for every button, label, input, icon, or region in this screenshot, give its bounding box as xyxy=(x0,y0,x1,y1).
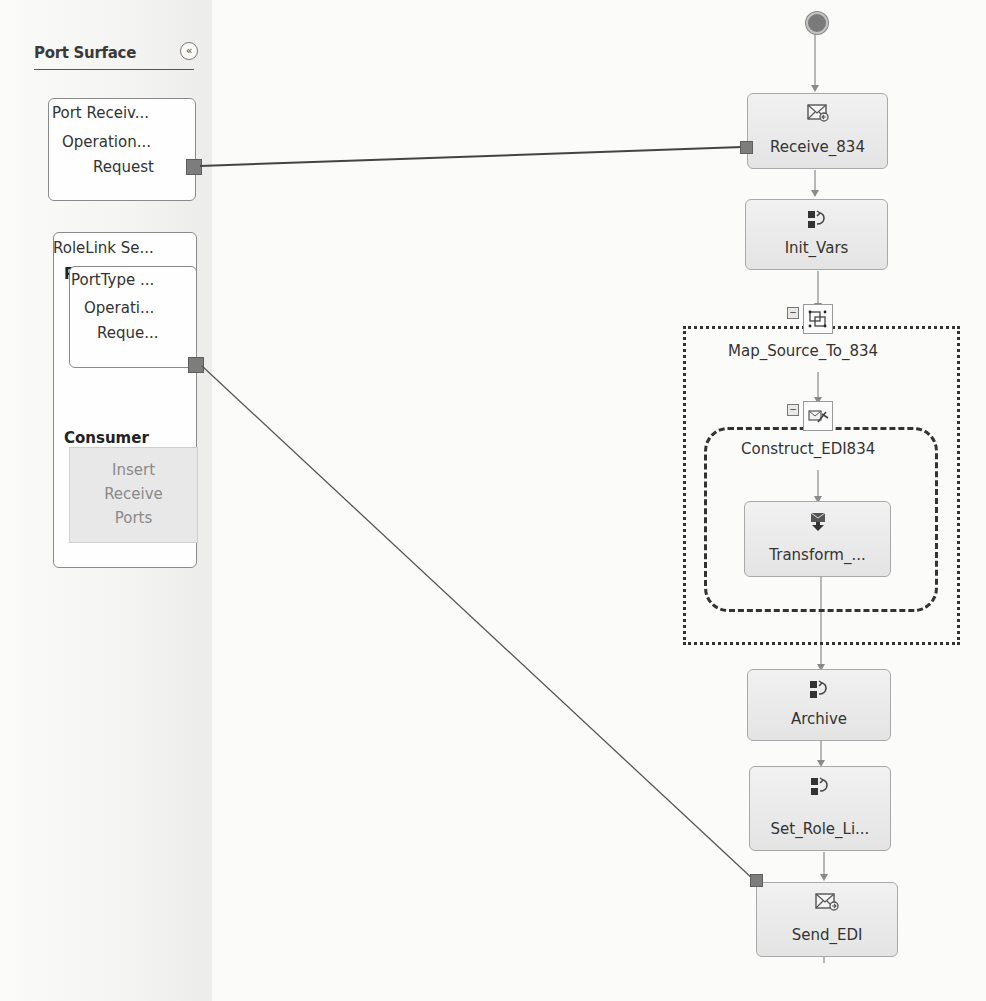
shape-label: Set_Role_Li... xyxy=(750,820,890,838)
shape-set-role-link[interactable]: Set_Role_Li... xyxy=(749,766,891,851)
receive-message-icon xyxy=(807,104,829,126)
shape-label: Receive_834 xyxy=(748,138,887,156)
shape-label: Init_Vars xyxy=(746,239,887,257)
scope-icon[interactable] xyxy=(803,304,833,334)
send-message-icon xyxy=(815,893,839,915)
transform-icon xyxy=(809,512,827,536)
expression-icon xyxy=(809,777,831,801)
send-port-connector[interactable] xyxy=(750,874,763,887)
construct-message-icon[interactable] xyxy=(803,401,833,431)
expression-icon xyxy=(808,680,830,704)
shape-archive[interactable]: Archive xyxy=(747,669,891,741)
shape-label: Transform_... xyxy=(745,546,890,564)
scope-label: Map_Source_To_834 xyxy=(728,342,878,360)
shape-transform[interactable]: Transform_... xyxy=(744,501,891,577)
shape-label: Archive xyxy=(748,710,890,728)
shape-init-vars[interactable]: Init_Vars xyxy=(745,199,888,270)
start-shape[interactable] xyxy=(806,12,828,34)
shape-receive-834[interactable]: Receive_834 xyxy=(747,93,888,169)
collapse-construct-icon[interactable]: − xyxy=(787,404,799,416)
expression-icon xyxy=(806,210,828,234)
shape-send-edi[interactable]: Send_EDI xyxy=(756,882,898,957)
construct-label: Construct_EDI834 xyxy=(741,440,875,458)
shape-label: Send_EDI xyxy=(757,926,897,944)
receive-port-connector[interactable] xyxy=(740,141,753,154)
collapse-scope-icon[interactable]: − xyxy=(787,307,799,319)
